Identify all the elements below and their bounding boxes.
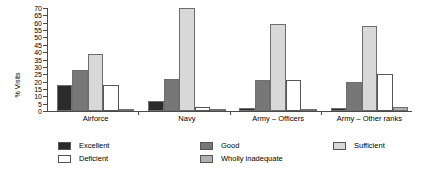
legend-label: Excellent [79,141,109,150]
bar [362,26,378,111]
bar [119,109,135,111]
bar [255,80,271,111]
bar [270,24,286,111]
y-axis-title: % Visits [14,72,21,97]
bar-chart-figure: % Visits 0510152025303540455055606570 Ai… [0,0,421,169]
y-axis-tick-label: 70 [34,5,42,12]
legend-item: Wholly inadequate [200,152,283,165]
x-axis-category-label: Army – Officers [252,114,304,123]
bar [88,54,104,111]
y-axis-tick-label: 50 [34,34,42,41]
y-axis-tick-mark [43,37,47,38]
y-axis-tick-mark [43,45,47,46]
y-axis-tick-mark [43,96,47,97]
bar-group [57,8,135,111]
bar [164,79,180,111]
bar [179,8,195,111]
y-axis-tick-mark [43,52,47,53]
y-axis-tick-label: 65 [34,12,42,19]
legend-swatch-icon [58,142,71,150]
y-axis-tick-mark [43,30,47,31]
y-axis-tick-mark [43,111,47,112]
legend-label: Deficient [79,154,108,163]
legend-swatch-icon [200,155,213,163]
bar [331,108,347,111]
bar [346,82,362,111]
y-axis-tick-label: 45 [34,41,42,48]
legend-column: ExcellentDeficient [58,139,109,165]
x-axis-group-separator [230,112,231,115]
y-axis-tick-label: 5 [38,100,42,107]
y-axis-tick-mark [43,104,47,105]
x-axis-group-separator [138,112,139,115]
legend-swatch-icon [200,142,213,150]
chart-legend: ExcellentDeficientGoodWholly inadequateS… [58,139,408,165]
y-axis-tick-label: 15 [34,85,42,92]
bar [57,85,73,111]
y-axis-tick-label: 60 [34,19,42,26]
x-axis-category-label: Navy [178,114,195,123]
legend-item: Good [200,139,283,152]
x-axis-category-label: Airforce [83,114,109,123]
y-axis-tick-mark [43,60,47,61]
y-axis-tick-label: 40 [34,49,42,56]
bar [286,80,302,111]
bar-group [239,8,317,111]
y-axis-tick-label: 10 [34,93,42,100]
y-axis-tick-label: 30 [34,63,42,70]
y-axis-tick-label: 25 [34,71,42,78]
legend-label: Good [221,141,239,150]
bar-group [148,8,226,111]
legend-item: Excellent [58,139,109,152]
bar [72,70,88,111]
x-axis-category-label: Army – Other ranks [337,114,402,123]
bar [239,108,255,111]
bar [301,109,317,111]
legend-label: Sufficient [354,141,385,150]
plot-area: 0510152025303540455055606570 [47,8,412,112]
y-axis-tick-mark [43,82,47,83]
y-axis-tick-mark [43,74,47,75]
y-axis-tick-label: 35 [34,56,42,63]
y-axis-tick-mark [43,8,47,9]
y-axis-tick-mark [43,67,47,68]
y-axis-tick-mark [43,23,47,24]
legend-column: Sufficient [333,139,385,152]
y-axis-tick-label: 55 [34,27,42,34]
bar [148,101,164,111]
legend-column: GoodWholly inadequate [200,139,283,165]
bar [393,107,409,111]
legend-swatch-icon [333,142,346,150]
y-axis-line [47,8,48,112]
bar [210,109,226,111]
bar [195,107,211,111]
y-axis-tick-mark [43,15,47,16]
legend-item: Sufficient [333,139,385,152]
y-axis-tick-mark [43,89,47,90]
bar [103,85,119,111]
y-axis-tick-label: 0 [38,108,42,115]
x-axis-group-separator [321,112,322,115]
legend-item: Deficient [58,152,109,165]
legend-label: Wholly inadequate [221,154,283,163]
legend-swatch-icon [58,155,71,163]
bar [377,74,393,111]
bar-group [331,8,409,111]
y-axis-tick-label: 20 [34,78,42,85]
